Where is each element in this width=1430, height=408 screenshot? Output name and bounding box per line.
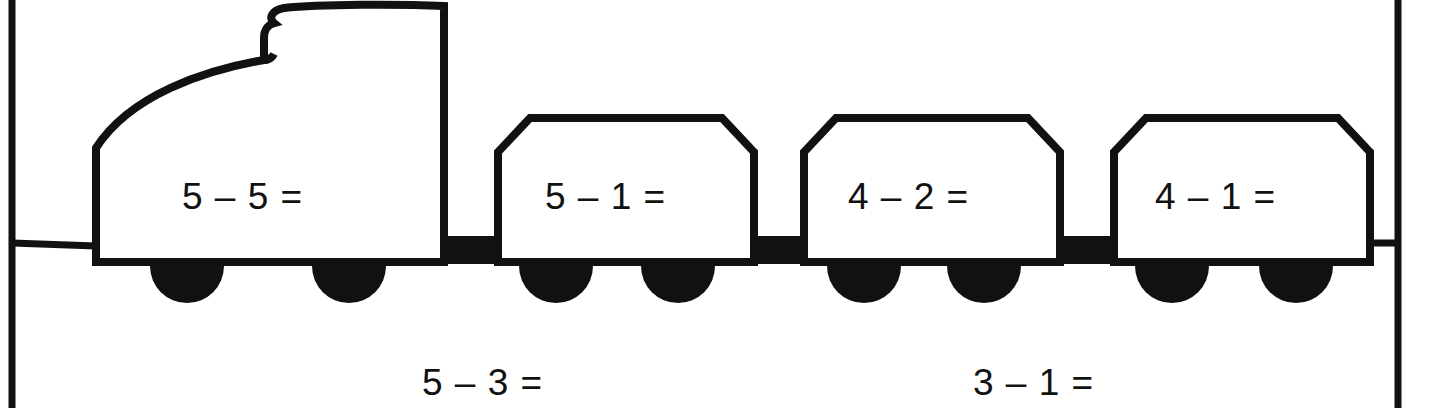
rail-line-left [12, 243, 96, 246]
wagon-2-equation: 4 – 2 = [848, 176, 969, 217]
coupling-3 [1057, 236, 1115, 264]
wagon-2: 4 – 2 = [804, 118, 1060, 303]
wagon-1: 5 – 1 = [498, 118, 754, 303]
worksheet-page: 5 – 5 = 5 – 1 = 4 – 2 = 4 – 1 = 5 – 3 = … [0, 0, 1430, 408]
wagon-3-equation: 4 – 1 = [1155, 176, 1276, 217]
locomotive-body [96, 5, 444, 262]
bottom-problem-2: 3 – 1 = [973, 362, 1094, 403]
locomotive-equation: 5 – 5 = [182, 176, 303, 217]
coupling-1 [446, 236, 502, 264]
coupling-2 [752, 236, 806, 264]
locomotive: 5 – 5 = [96, 5, 444, 303]
bottom-problem-1: 5 – 3 = [422, 362, 543, 403]
wagon-1-equation: 5 – 1 = [545, 176, 666, 217]
wagon-3: 4 – 1 = [1114, 118, 1370, 303]
